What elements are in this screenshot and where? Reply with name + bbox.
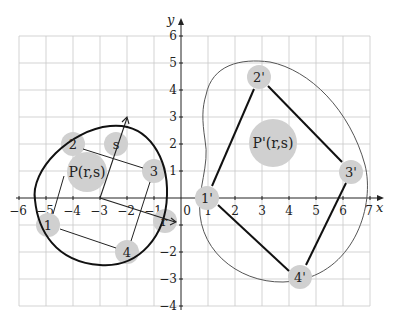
edge-prime-3-4 bbox=[306, 183, 346, 265]
x-axis-name: x bbox=[376, 200, 384, 215]
point-prime-label-4: 4' bbox=[294, 270, 306, 285]
y-tick-label: 5 bbox=[169, 56, 177, 70]
point-prime-label-2: 2' bbox=[253, 70, 265, 85]
x-tick-label: 3 bbox=[258, 204, 266, 218]
x-tick-labels: −6 −5 −4 −3 −2 −1 0 1 2 3 4 5 6 7 bbox=[9, 204, 373, 218]
x-tick-label: 7 bbox=[365, 204, 373, 218]
y-tick-label: −4 bbox=[159, 299, 177, 313]
y-tick-label: −3 bbox=[159, 272, 177, 286]
y-tick-label: 3 bbox=[169, 110, 177, 124]
x-tick-label: 6 bbox=[339, 204, 347, 218]
target-region: 1' 2' 3' 4' P'(r,s) bbox=[195, 61, 367, 289]
y-tick-label: 4 bbox=[169, 83, 177, 97]
x-tick-label: −6 bbox=[9, 204, 27, 218]
edge-prime-1-2 bbox=[212, 89, 254, 186]
r-label: r bbox=[161, 214, 168, 229]
y-tick-label: 2 bbox=[169, 137, 177, 151]
x-tick-label: 4 bbox=[285, 204, 293, 218]
s-axis bbox=[100, 118, 127, 198]
x-tick-label: −4 bbox=[63, 204, 81, 218]
y-axis-arrow-icon bbox=[178, 18, 184, 25]
edge-prime-4-1 bbox=[218, 205, 289, 271]
source-region: 1 2 3 4 P(r,s) s r bbox=[35, 117, 177, 265]
y-tick-label: 1 bbox=[169, 164, 177, 178]
point-label-1: 1 bbox=[44, 218, 52, 233]
point-prime-label-3: 3' bbox=[345, 165, 357, 180]
point-label-4: 4 bbox=[123, 245, 131, 260]
x-tick-label: 5 bbox=[312, 204, 320, 218]
y-axis-name: y bbox=[166, 12, 175, 27]
edge-4-1 bbox=[60, 229, 116, 248]
point-label-3: 3 bbox=[150, 164, 158, 179]
center-prime-label: P'(r,s) bbox=[253, 135, 294, 151]
x-tick-label: 2 bbox=[231, 204, 239, 218]
x-tick-label: −3 bbox=[90, 204, 108, 218]
y-tick-label: 6 bbox=[169, 29, 177, 43]
point-prime-label-1: 1' bbox=[201, 191, 213, 206]
center-label: P(r,s) bbox=[68, 164, 105, 180]
s-label: s bbox=[113, 137, 120, 152]
transform-diagram: −6 −5 −4 −3 −2 −1 0 1 2 3 4 5 6 7 −4 −3 … bbox=[0, 0, 400, 326]
y-tick-label: −2 bbox=[159, 245, 177, 259]
point-label-2: 2 bbox=[69, 137, 77, 152]
x-tick-label: 0 bbox=[183, 204, 191, 218]
